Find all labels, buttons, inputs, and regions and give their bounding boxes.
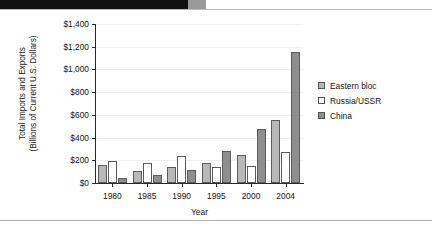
bar-chart: Total Imports and Exports (Billions of C…: [0, 9, 432, 220]
x-axis-tick-label: 1980: [103, 191, 122, 201]
x-axis-tick-label: 1995: [207, 191, 226, 201]
x-axis-tick-mark: [112, 183, 113, 187]
legend-item[interactable]: Eastern bloc: [318, 78, 428, 93]
bar[interactable]: [237, 155, 246, 183]
plot-area: $0$200$400$600$800$1,000$1,200$1,400 198…: [95, 24, 303, 183]
white-swatch: [318, 97, 325, 104]
bar-group: 2000: [234, 24, 269, 183]
bar[interactable]: [291, 52, 300, 183]
y-axis-tick-label: $1,400: [63, 19, 95, 29]
dark-gray-swatch: [318, 112, 325, 119]
x-axis-tick-mark: [147, 183, 148, 187]
x-axis-tick-mark: [286, 183, 287, 187]
x-axis-tick-label: 1990: [172, 191, 191, 201]
legend-item[interactable]: Russia/USSR: [318, 93, 428, 108]
bar[interactable]: [212, 167, 221, 183]
x-axis-tick-mark: [251, 183, 252, 187]
legend-item-label: Eastern bloc: [330, 81, 377, 91]
y-axis-tick-mark: [92, 183, 96, 184]
bar[interactable]: [98, 165, 107, 183]
y-axis-tick-label: $1,200: [63, 42, 95, 52]
x-axis-tick-label: 2004: [276, 191, 295, 201]
bar-group: 1990: [164, 24, 199, 183]
bar-group: 1985: [130, 24, 165, 183]
y-axis-title-line2: (Billions of Current U.S. Dollars): [28, 19, 39, 169]
bar-group: 2004: [268, 24, 303, 183]
x-axis-tick-mark: [182, 183, 183, 187]
bar[interactable]: [133, 171, 142, 183]
legend-item[interactable]: China: [318, 108, 428, 123]
bar[interactable]: [118, 178, 127, 183]
scan-artifact-gray-bar: [188, 0, 206, 9]
y-axis-title-line1: Total Imports and Exports: [18, 19, 29, 169]
bar[interactable]: [271, 120, 280, 183]
bar[interactable]: [167, 167, 176, 183]
light-gray-swatch: [318, 82, 325, 89]
y-axis-tick-label: $1,000: [63, 64, 95, 74]
legend-item-label: China: [330, 111, 352, 121]
chart-page: Total Imports and Exports (Billions of C…: [0, 0, 432, 232]
x-axis-tick-label: 2000: [242, 191, 261, 201]
bar[interactable]: [202, 163, 211, 183]
x-axis-tick-mark: [216, 183, 217, 187]
bar[interactable]: [187, 170, 196, 183]
bar[interactable]: [177, 156, 186, 183]
bar[interactable]: [281, 152, 290, 183]
chart-legend: Eastern blocRussia/USSRChina: [318, 78, 428, 123]
bar[interactable]: [247, 166, 256, 183]
bar-groups: 198019851990199520002004: [95, 24, 303, 183]
bar[interactable]: [108, 161, 117, 183]
x-axis-title: Year: [95, 207, 304, 217]
x-axis-line: [95, 183, 304, 184]
x-axis-tick-label: 1985: [138, 191, 157, 201]
bar[interactable]: [143, 163, 152, 183]
y-axis-title: Total Imports and Exports (Billions of C…: [18, 19, 39, 169]
scan-artifact-black-bar: [0, 0, 188, 9]
page-rule-bottom: [0, 220, 432, 221]
bar-group: 1995: [199, 24, 234, 183]
bar-group: 1980: [95, 24, 130, 183]
bar[interactable]: [153, 175, 162, 183]
legend-item-label: Russia/USSR: [330, 96, 381, 106]
bar[interactable]: [222, 151, 231, 183]
bar[interactable]: [257, 129, 266, 183]
